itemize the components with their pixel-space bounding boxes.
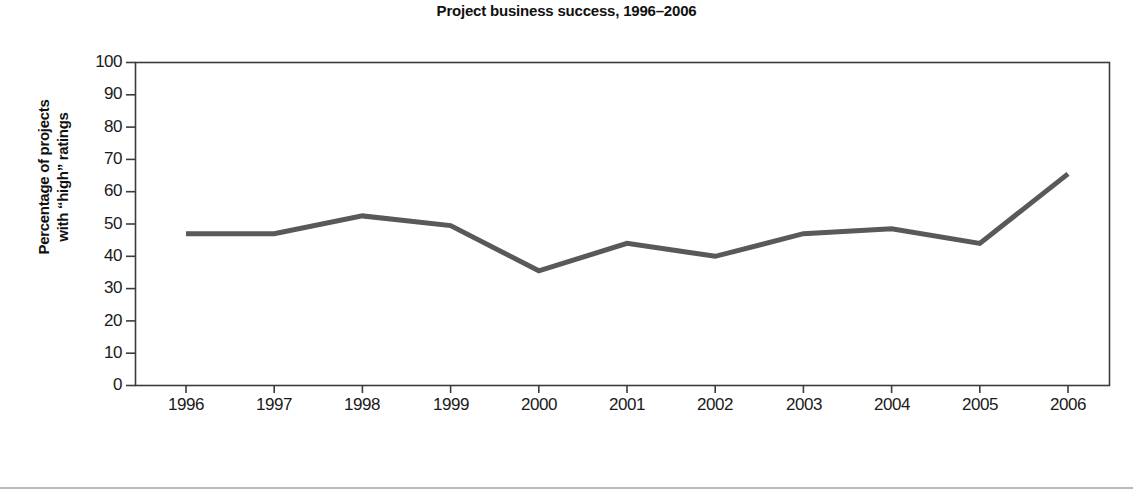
y-axis-ticks (126, 63, 136, 386)
plot-area (0, 0, 1133, 490)
data-line-series-0 (186, 174, 1068, 271)
chart-figure: Project business success, 1996–2006 Perc… (0, 0, 1133, 490)
page-bottom-rule (0, 487, 1133, 489)
x-axis-ticks (186, 386, 1068, 394)
plot-frame (136, 63, 1110, 386)
